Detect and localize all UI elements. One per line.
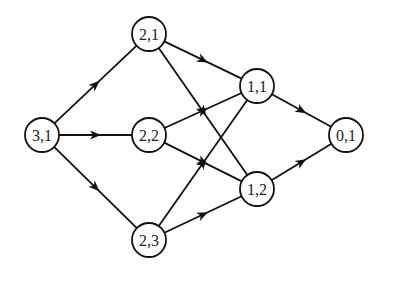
node-label: 3,1 (32, 127, 52, 144)
node-label: 2,3 (139, 232, 159, 249)
arrow-icon (294, 159, 306, 169)
nodes-layer: 3,12,12,22,31,11,20,1 (25, 17, 363, 257)
arrowheads-layer (88, 54, 306, 221)
node-label: 1,2 (247, 181, 267, 198)
directed-graph: 3,12,12,22,31,11,20,1 (0, 0, 400, 282)
node-2-3: 2,3 (132, 223, 166, 257)
node-2-2: 2,2 (132, 118, 166, 152)
node-2-1: 2,1 (132, 17, 166, 51)
node-label: 1,1 (247, 78, 267, 95)
node-0-1: 0,1 (329, 118, 363, 152)
node-label: 0,1 (336, 127, 356, 144)
node-1-1: 1,1 (240, 69, 274, 103)
node-label: 2,1 (139, 26, 159, 43)
node-3-1: 3,1 (25, 118, 59, 152)
node-1-2: 1,2 (240, 172, 274, 206)
diagram-canvas: 3,12,12,22,31,11,20,1 (0, 0, 400, 282)
node-label: 2,2 (139, 127, 159, 144)
